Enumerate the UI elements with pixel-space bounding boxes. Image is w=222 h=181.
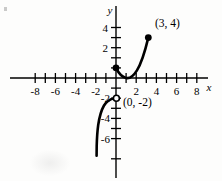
y-axis-name-label: y: [107, 4, 113, 16]
y-tick-label-neg6: -6: [101, 133, 111, 145]
x-tick-label-8: 8: [194, 85, 200, 97]
x-tick-label-6: 6: [174, 85, 180, 97]
x-tick-label-4: 4: [154, 85, 160, 97]
endpoint-open-circle-0-neg2: [113, 95, 119, 101]
lower-branch-curve: [97, 98, 115, 156]
y-tick-label-neg4: -4: [101, 112, 111, 124]
point-label-0-neg2: (0, -2): [123, 96, 152, 109]
endpoint-dot-3-4: [145, 34, 152, 41]
x-axis-name-label: x: [206, 81, 212, 93]
x-tick-label-neg4: -4: [71, 85, 81, 97]
endpoint-dot-0-1: [113, 65, 120, 72]
coordinate-plane: -8 -6 -4 -2 2 4 6 8 4 2 -2 -4 -6 x y (3,…: [0, 0, 222, 181]
x-tick-label-neg6: -6: [51, 85, 61, 97]
point-label-3-4: (3, 4): [155, 17, 180, 30]
x-tick-label-neg2: -2: [91, 85, 100, 97]
x-tick-label-neg8: -8: [31, 85, 41, 97]
y-tick-label-2: 2: [103, 42, 109, 54]
graph-figure: -8 -6 -4 -2 2 4 6 8 4 2 -2 -4 -6 x y (3,…: [0, 0, 222, 181]
y-tick-label-4: 4: [103, 22, 109, 34]
